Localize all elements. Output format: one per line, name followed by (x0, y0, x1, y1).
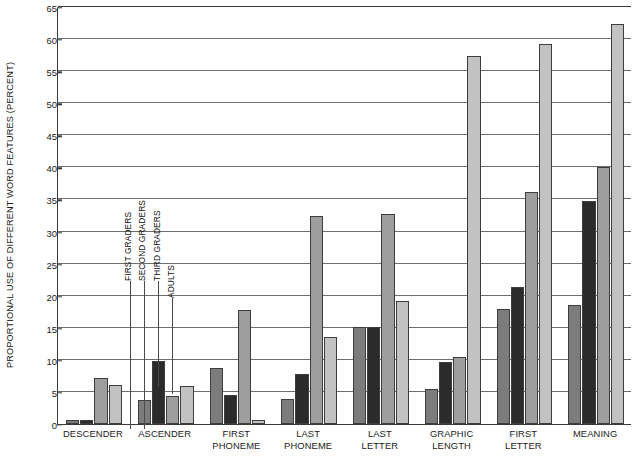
x-axis-labels: DESCENDERASCENDERFIRSTPHONEMELASTPHONEME… (57, 428, 631, 464)
legend-label-first-graders: FIRST GRADERS (123, 212, 133, 281)
bar-group-first-phoneme (210, 8, 266, 424)
bar-adults-last-letter[interactable] (396, 301, 409, 424)
bar-group-first-letter (497, 8, 553, 424)
x-label-ascender: ASCENDER (129, 428, 201, 440)
x-label-last-letter: LASTLETTER (344, 428, 416, 451)
legend-entry-second-graders: SECOND GRADERS (144, 16, 145, 433)
legend-entry-third-graders: THIRD GRADERS (158, 16, 159, 433)
bar-second-graders-meaning[interactable] (582, 201, 595, 424)
x-label-first-letter: FIRSTLETTER (488, 428, 560, 451)
legend-leader-line-first-graders (130, 281, 131, 429)
y-tick-label-55: 55 (35, 67, 57, 78)
bar-first-graders-descender[interactable] (66, 420, 79, 424)
bar-third-graders-last-letter[interactable] (381, 214, 394, 424)
bar-second-graders-first-letter[interactable] (511, 287, 524, 424)
gridline-65 (58, 6, 631, 7)
bar-chart-figure: PROPORTIONAL USE OF DIFFERENT WORD FEATU… (0, 0, 638, 464)
x-label-meaning: MEANING (559, 428, 631, 440)
x-label-descender: DESCENDER (57, 428, 129, 440)
bar-second-graders-graphic-length[interactable] (439, 362, 452, 424)
y-axis-ticks: 05101520253035404550556065 (25, 8, 57, 425)
bar-third-graders-first-letter[interactable] (525, 192, 538, 424)
legend-leader-line-second-graders (144, 281, 145, 429)
y-tick-label-5: 5 (35, 387, 57, 398)
legend-leader-line-adults (172, 298, 173, 394)
bar-first-graders-meaning[interactable] (568, 305, 581, 424)
x-label-graphic-length: GRAPHICLENGTH (416, 428, 488, 451)
y-axis-title: PROPORTIONAL USE OF DIFFERENT WORD FEATU… (0, 0, 20, 430)
bar-third-graders-descender[interactable] (94, 378, 107, 424)
y-tick-label-35: 35 (35, 195, 57, 206)
y-tick-label-15: 15 (35, 323, 57, 334)
y-tick-label-20: 20 (35, 291, 57, 302)
legend-entry-adults: ADULTS (172, 16, 173, 433)
bar-group-last-letter (353, 8, 409, 424)
bar-first-graders-first-letter[interactable] (497, 309, 510, 424)
y-tick-label-10: 10 (35, 355, 57, 366)
y-tick-label-0: 0 (35, 420, 57, 431)
y-tick-label-50: 50 (35, 99, 57, 110)
bar-group-graphic-length (425, 8, 481, 424)
x-label-first-phoneme: FIRSTPHONEME (201, 428, 273, 451)
y-tick-label-40: 40 (35, 163, 57, 174)
legend-leader-line-third-graders (158, 281, 159, 387)
bar-second-graders-last-letter[interactable] (367, 327, 380, 424)
y-tick-label-65: 65 (35, 3, 57, 14)
bar-third-graders-last-phoneme[interactable] (310, 216, 323, 424)
y-axis-title-text: PROPORTIONAL USE OF DIFFERENT WORD FEATU… (5, 62, 15, 368)
legend-label-third-graders: THIRD GRADERS (152, 210, 162, 281)
bar-first-graders-first-phoneme[interactable] (210, 368, 223, 424)
bar-third-graders-graphic-length[interactable] (453, 357, 466, 424)
bar-adults-meaning[interactable] (611, 24, 624, 424)
bar-adults-graphic-length[interactable] (467, 56, 480, 424)
bar-group-last-phoneme (281, 8, 337, 424)
y-tick-label-30: 30 (35, 227, 57, 238)
legend-label-second-graders: SECOND GRADERS (137, 200, 147, 281)
bar-first-graders-last-letter[interactable] (353, 327, 366, 424)
y-tick-label-25: 25 (35, 259, 57, 270)
bar-adults-first-letter[interactable] (539, 44, 552, 424)
x-label-last-phoneme: LASTPHONEME (272, 428, 344, 451)
bar-group-descender (66, 8, 122, 424)
bar-second-graders-last-phoneme[interactable] (295, 374, 308, 424)
bar-group-meaning (568, 8, 624, 424)
bar-adults-last-phoneme[interactable] (324, 337, 337, 424)
bar-second-graders-descender[interactable] (80, 420, 93, 424)
bar-second-graders-first-phoneme[interactable] (224, 395, 237, 425)
y-tick-label-60: 60 (35, 35, 57, 46)
bar-adults-ascender[interactable] (180, 386, 193, 424)
bar-adults-first-phoneme[interactable] (252, 420, 265, 424)
plot-area: FIRST GRADERSSECOND GRADERSTHIRD GRADERS… (57, 8, 631, 425)
bar-adults-descender[interactable] (109, 385, 122, 424)
y-tick-label-45: 45 (35, 131, 57, 142)
bar-first-graders-graphic-length[interactable] (425, 389, 438, 424)
bar-third-graders-first-phoneme[interactable] (238, 310, 251, 424)
legend-entry-first-graders: FIRST GRADERS (130, 16, 131, 433)
bar-third-graders-meaning[interactable] (597, 167, 610, 424)
legend-label-adults: ADULTS (166, 265, 176, 298)
bar-first-graders-last-phoneme[interactable] (281, 399, 294, 424)
